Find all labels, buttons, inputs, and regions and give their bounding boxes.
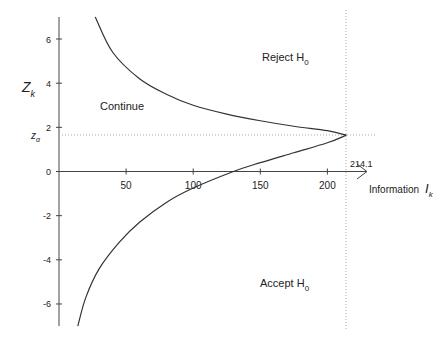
x-tick-label: 50 <box>121 180 133 191</box>
imax-label: 214.1 <box>350 159 373 169</box>
y-axis-label: Zk <box>21 79 36 99</box>
lower-boundary-curve <box>78 135 347 326</box>
y-tick-label: 0 <box>46 167 51 177</box>
y-tick-label: -4 <box>43 255 51 265</box>
z-alpha-label: zα <box>30 130 41 143</box>
x-tick-label: 200 <box>319 180 336 191</box>
continue-region-label: Continue <box>100 100 144 112</box>
chart: 6420-2-4-6 50100150200 Zk zα 214.1 Infor… <box>0 0 447 346</box>
x-axis-label: InformationIk <box>369 181 434 199</box>
y-tick-label: -2 <box>43 211 51 221</box>
y-tick-label: -6 <box>43 299 51 309</box>
y-tick-label: 4 <box>46 79 51 89</box>
y-tick-label: 2 <box>46 123 51 133</box>
x-tick-label: 150 <box>252 180 269 191</box>
accept-region-label: Accept H0 <box>260 277 310 293</box>
upper-boundary-curve <box>95 17 346 135</box>
y-tick-label: 6 <box>46 35 51 45</box>
reject-region-label: Reject H0 <box>262 51 309 67</box>
